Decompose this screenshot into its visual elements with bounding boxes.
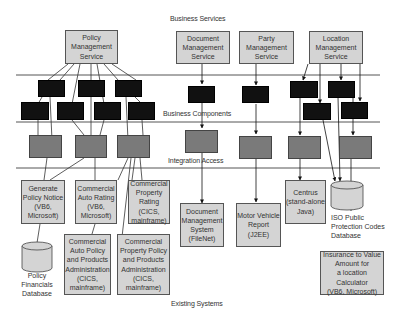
business-component[interactable]	[128, 102, 155, 120]
business-component[interactable]	[328, 81, 355, 98]
iso-database-icon	[331, 181, 363, 210]
system-commercial-auto-rating[interactable]: Commercial Auto Rating (VB6, Microsoft)	[75, 180, 117, 224]
business-component[interactable]	[38, 80, 65, 97]
integration-adapter[interactable]	[185, 130, 218, 153]
integration-adapter[interactable]	[117, 135, 150, 158]
system-insurance-to-value-calculator[interactable]: Insurance to Value Amount for a location…	[320, 251, 384, 295]
business-component[interactable]	[57, 102, 84, 120]
iso-public-protection-database-label: ISO Public Protection Codes Database	[331, 213, 385, 240]
business-component[interactable]	[188, 86, 215, 103]
party-management-service[interactable]: Party Management Service	[239, 31, 294, 64]
policy-financials-database-icon	[22, 242, 52, 272]
layer-label-business-components: Business Components	[163, 110, 231, 117]
business-component[interactable]	[290, 81, 318, 98]
system-document-management[interactable]: Document Management System (FileNet)	[180, 203, 224, 247]
system-centrus[interactable]: Centrus (stand-alone Java)	[285, 180, 326, 224]
location-management-service[interactable]: Location Management Service	[309, 31, 363, 64]
system-commercial-auto-policy-admin[interactable]: Commercial Auto Policy and Products Admi…	[64, 234, 111, 295]
business-component[interactable]	[78, 80, 105, 97]
layer-label-business-services: Business Services	[170, 15, 226, 22]
integration-adapter[interactable]	[239, 136, 272, 159]
layer-label-existing-systems: Existing Systems	[171, 300, 223, 307]
business-component[interactable]	[94, 102, 121, 120]
business-component[interactable]	[341, 102, 368, 119]
business-component[interactable]	[242, 86, 269, 103]
system-generate-policy-notice[interactable]: Generate Policy Notice (VB6, Microsoft)	[21, 180, 65, 224]
layer-label-integration-access: Integration Access	[168, 157, 223, 164]
document-management-service[interactable]: Document Management Service	[176, 31, 230, 64]
business-component[interactable]	[21, 102, 49, 120]
system-commercial-property-policy-admin[interactable]: Commercial Property Policy and Products …	[117, 234, 170, 295]
business-component[interactable]	[303, 103, 331, 120]
policy-financials-database-label: Policy Financials Database	[12, 271, 62, 298]
integration-adapter[interactable]	[339, 136, 372, 159]
system-motor-vehicle-report[interactable]: Motor Vehicle Report (J2EE)	[236, 203, 281, 247]
system-commercial-property-rating[interactable]: Commercial Property Rating (CICS, mainfr…	[128, 180, 170, 224]
business-component[interactable]	[115, 80, 142, 97]
integration-adapter[interactable]	[29, 135, 62, 158]
integration-adapter[interactable]	[288, 136, 321, 159]
integration-adapter[interactable]	[75, 135, 107, 158]
policy-management-service[interactable]: Policy Management Service	[65, 30, 118, 64]
